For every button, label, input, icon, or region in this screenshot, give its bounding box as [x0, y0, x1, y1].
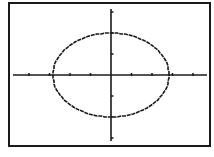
- axes: [13, 9, 207, 141]
- calculator-graph-screen: [0, 0, 214, 157]
- graph-plot: [0, 0, 214, 157]
